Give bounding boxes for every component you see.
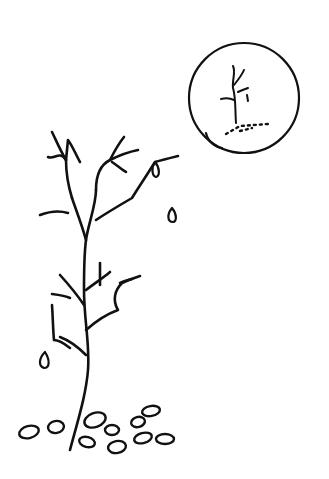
small-ground (226, 124, 268, 134)
ground-leaves (18, 405, 174, 455)
leaf-icon (152, 162, 158, 177)
drawing-canvas (0, 0, 329, 479)
leaf-icon (40, 352, 49, 368)
leaf-icon (168, 208, 176, 222)
inset-circle (189, 43, 299, 153)
line-drawing (0, 0, 329, 479)
sapling-tree (40, 132, 178, 450)
small-tree (221, 66, 248, 123)
